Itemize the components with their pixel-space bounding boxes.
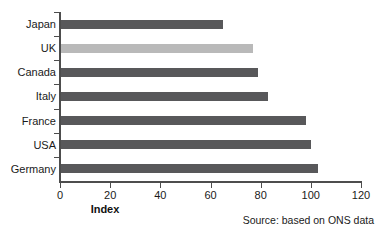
bar-canada (60, 68, 258, 77)
bar-row (60, 157, 361, 181)
bar-france (60, 116, 306, 125)
source-note: Source: based on ONS data (243, 214, 374, 226)
x-axis-tick-label: 40 (140, 189, 180, 201)
y-axis-label-france: France (0, 116, 56, 127)
y-axis-tick (54, 133, 60, 134)
y-axis-label-germany: Germany (0, 164, 56, 175)
y-axis-label-japan: Japan (0, 19, 56, 30)
y-axis-tick (54, 84, 60, 85)
x-axis-tick (160, 183, 161, 188)
bar-row (60, 84, 361, 108)
x-axis-tick (211, 183, 212, 188)
bar-germany (60, 164, 318, 173)
bar-row (60, 36, 361, 60)
y-axis-tick (54, 36, 60, 37)
plot-area (60, 12, 361, 181)
x-axis-tick-label: 120 (341, 189, 380, 201)
y-axis-label-usa: USA (0, 140, 56, 151)
y-axis-tick (54, 60, 60, 61)
y-axis-label-canada: Canada (0, 67, 56, 78)
bar-japan (60, 20, 223, 29)
y-axis-tick (54, 12, 60, 13)
x-axis-tick-label: 80 (241, 189, 281, 201)
x-axis-tick-label: 0 (40, 189, 80, 201)
y-axis-tick (54, 109, 60, 110)
bar-row (60, 60, 361, 84)
y-axis-label-uk: UK (0, 43, 56, 54)
x-axis-tick (361, 183, 362, 188)
bar-chart-figure: Japan UK Canada Italy France USA Germany… (0, 0, 380, 231)
x-axis-tick-label: 100 (291, 189, 331, 201)
bar-row (60, 133, 361, 157)
x-axis-tick (261, 183, 262, 188)
x-axis-tick-label: 60 (191, 189, 231, 201)
x-axis-tick (311, 183, 312, 188)
x-axis-tick (60, 183, 61, 188)
y-axis-label-italy: Italy (0, 91, 56, 102)
bar-row (60, 12, 361, 36)
bar-usa (60, 140, 311, 149)
bar-uk (60, 44, 253, 53)
y-axis-tick (54, 157, 60, 158)
bar-row (60, 109, 361, 133)
x-axis-tick-label: 20 (90, 189, 130, 201)
bar-italy (60, 92, 268, 101)
x-axis-tick (110, 183, 111, 188)
